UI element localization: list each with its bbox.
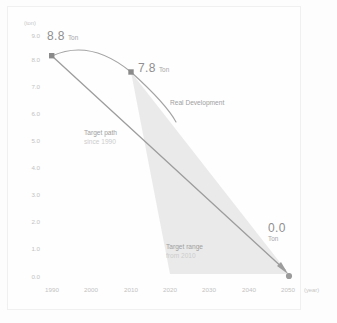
y-tick-8: 8.0	[20, 56, 40, 63]
value-number-2050: 0.0	[268, 222, 286, 235]
x-tick-2030: 2030	[194, 286, 224, 293]
annotation-target-path-label: Target path	[84, 129, 117, 138]
annotation-target-range-sublabel: from 2010	[166, 252, 203, 261]
y-tick-9: 9.0	[20, 32, 40, 39]
annotation-target-path-sublabel: since 1990	[84, 138, 117, 147]
y-axis-label: (ton)	[24, 20, 36, 26]
annotation-target-range-label: Target range	[166, 243, 203, 252]
data-point-marker-2010	[128, 69, 133, 74]
annotation-real-development-label: Real Development	[170, 99, 224, 106]
value-label-2010: 7.8Ton	[138, 58, 169, 76]
annotation-target-path: Target path since 1990	[84, 129, 117, 147]
x-axis-label: (year)	[304, 287, 319, 293]
chart-plot-area	[0, 0, 337, 323]
value-number-2010: 7.8	[138, 61, 156, 75]
value-unit-1990: Ton	[68, 34, 78, 41]
y-tick-0: 0.0	[20, 273, 40, 280]
value-unit-2050: Ton	[268, 236, 286, 243]
x-tick-2050: 2050	[273, 286, 303, 293]
emissions-target-chart: (ton) 9.0 8.0 7.0 6.0 5.0 4.0 3.0 2.0 1.…	[0, 0, 337, 323]
annotation-target-range: Target range from 2010	[166, 243, 203, 261]
y-tick-4: 4.0	[20, 164, 40, 171]
annotation-real-development: Real Development	[170, 99, 224, 106]
y-tick-6: 6.0	[20, 110, 40, 117]
data-point-marker-2050	[286, 273, 292, 279]
y-tick-7: 7.0	[20, 83, 40, 90]
x-tick-2000: 2000	[76, 286, 106, 293]
value-label-1990: 8.8Ton	[47, 26, 78, 44]
y-tick-5: 5.0	[20, 137, 40, 144]
x-tick-2010: 2010	[116, 286, 146, 293]
x-tick-2040: 2040	[234, 286, 264, 293]
y-tick-2: 2.0	[20, 218, 40, 225]
value-number-1990: 8.8	[47, 29, 65, 43]
value-unit-2010: Ton	[159, 66, 169, 73]
y-tick-3: 3.0	[20, 191, 40, 198]
y-tick-1: 1.0	[20, 245, 40, 252]
x-tick-2020: 2020	[155, 286, 185, 293]
data-point-marker-1990	[49, 53, 54, 58]
value-label-2050: 0.0 Ton	[268, 222, 286, 242]
x-tick-1990: 1990	[37, 286, 67, 293]
